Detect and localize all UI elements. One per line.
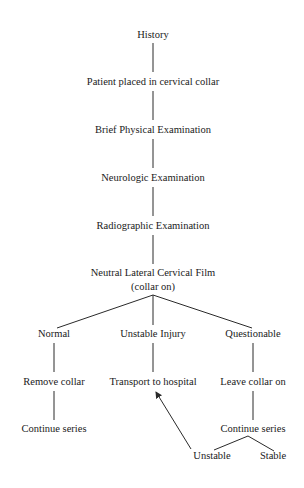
- node-continue-series-right: Continue series: [220, 423, 285, 435]
- node-unstable-injury: Unstable Injury: [120, 328, 186, 340]
- edge-continue-unstable: [214, 436, 248, 450]
- node-lateral-film-sub: (collar on): [131, 281, 175, 293]
- node-transport-hospital: Transport to hospital: [109, 376, 196, 388]
- edge-film-questionable: [153, 295, 252, 328]
- edge-continue-stable: [248, 436, 274, 451]
- node-neurologic-exam: Neurologic Examination: [101, 172, 205, 184]
- node-continue-series-left: Continue series: [21, 423, 86, 435]
- node-normal: Normal: [38, 328, 70, 340]
- node-questionable: Questionable: [225, 328, 280, 340]
- node-lateral-film: Neutral Lateral Cervical Film: [91, 267, 216, 279]
- node-remove-collar: Remove collar: [23, 376, 85, 388]
- arrow-unstable-to-transport: [156, 392, 191, 449]
- node-brief-physical-exam: Brief Physical Examination: [95, 124, 211, 136]
- node-unstable: Unstable: [193, 450, 230, 462]
- node-history: History: [137, 29, 169, 41]
- node-leave-collar-on: Leave collar on: [220, 376, 285, 388]
- connector-lines: [0, 0, 304, 488]
- node-cervical-collar: Patient placed in cervical collar: [87, 76, 219, 88]
- edge-film-normal: [57, 295, 153, 328]
- node-stable: Stable: [260, 450, 286, 462]
- node-radiographic-exam: Radiographic Examination: [97, 220, 210, 232]
